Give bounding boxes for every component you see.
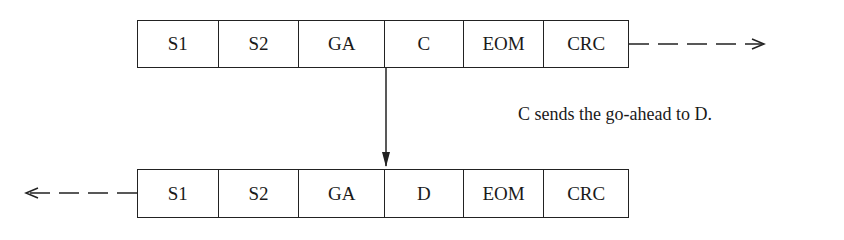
arrow-down-icon <box>382 68 390 167</box>
arrows-layer <box>0 0 844 240</box>
dashed-arrow-left-icon <box>26 188 137 198</box>
dashed-arrow-right-icon <box>629 39 764 49</box>
